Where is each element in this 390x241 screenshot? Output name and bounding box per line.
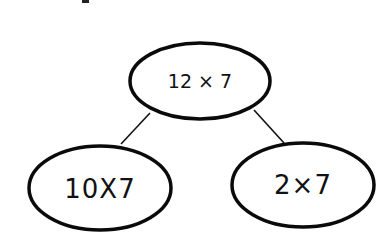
cropped-text-fragment bbox=[82, 0, 89, 3]
root-node-label: 12 × 7 bbox=[168, 70, 232, 92]
child-node-right-label: 2×7 bbox=[274, 170, 332, 200]
number-bond-diagram: 12 × 7 10X7 2×7 bbox=[0, 0, 390, 241]
root-node: 12 × 7 bbox=[130, 43, 270, 119]
connector-right bbox=[254, 110, 284, 143]
connector-left bbox=[121, 113, 150, 144]
child-node-left-label: 10X7 bbox=[64, 174, 135, 204]
child-node-left: 10X7 bbox=[29, 146, 171, 230]
child-node-right: 2×7 bbox=[232, 143, 374, 227]
